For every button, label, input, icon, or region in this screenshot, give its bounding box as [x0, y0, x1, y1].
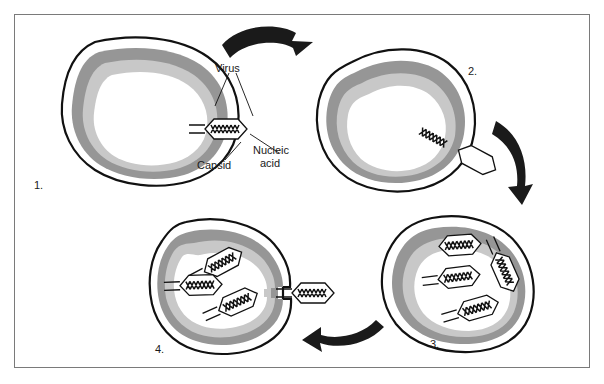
label-nucleic-acid-line1: Nucleic: [253, 145, 289, 156]
label-nucleic-acid-line2: acid: [260, 158, 280, 169]
stage-2-cell: [317, 49, 475, 191]
arrow-stage2-to-stage3: [492, 121, 533, 205]
stage-number-2: 2.: [468, 66, 477, 77]
label-virus: Virus: [215, 63, 240, 74]
arrow-stage3-to-stage4: [302, 320, 384, 352]
stage-number-1: 1.: [34, 180, 43, 191]
arrow-stage1-to-stage2: [222, 26, 313, 58]
stage-number-4: 4.: [155, 344, 164, 355]
diagram-graphics: [0, 0, 604, 384]
diagram-canvas: Virus Capsid Nucleic acid 1. 2. 3. 4.: [0, 0, 604, 384]
label-capsid: Capsid: [197, 160, 231, 171]
stage-number-3: 3.: [430, 339, 439, 350]
